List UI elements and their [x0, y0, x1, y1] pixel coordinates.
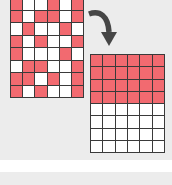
diagram-panel — [0, 0, 172, 160]
empty-cell — [23, 36, 35, 49]
filled-cell — [116, 80, 128, 92]
filled-cell — [91, 55, 103, 67]
filled-cell — [153, 80, 165, 92]
filled-cell — [23, 23, 35, 36]
empty-cell — [140, 104, 152, 116]
filled-cell — [11, 11, 23, 24]
filled-cell — [23, 73, 35, 86]
empty-cell — [116, 129, 128, 141]
filled-cell — [11, 73, 23, 86]
empty-cell — [91, 129, 103, 141]
filled-cell — [60, 23, 72, 36]
filled-cell — [128, 80, 140, 92]
filled-cell — [153, 92, 165, 104]
filled-cell — [91, 80, 103, 92]
filled-cell — [72, 11, 84, 24]
empty-cell — [91, 141, 103, 153]
empty-cell — [128, 141, 140, 153]
filled-cell — [128, 92, 140, 104]
empty-cell — [11, 23, 23, 36]
filled-cell — [11, 36, 23, 49]
empty-cell — [116, 141, 128, 153]
empty-cell — [60, 61, 72, 74]
filled-cell — [72, 86, 84, 99]
empty-cell — [23, 86, 35, 99]
empty-cell — [35, 48, 47, 61]
empty-cell — [23, 0, 35, 11]
filled-cell — [72, 36, 84, 49]
filled-cell — [116, 55, 128, 67]
filled-cell — [11, 48, 23, 61]
filled-cell — [140, 92, 152, 104]
filled-cell — [153, 67, 165, 79]
empty-cell — [153, 104, 165, 116]
empty-cell — [116, 116, 128, 128]
empty-cell — [103, 104, 115, 116]
empty-cell — [72, 23, 84, 36]
filled-cell — [128, 67, 140, 79]
filled-cell — [103, 80, 115, 92]
filled-cell — [35, 61, 47, 74]
curved-arrow-icon — [86, 6, 126, 50]
empty-cell — [35, 23, 47, 36]
empty-cell — [140, 141, 152, 153]
filled-cell — [91, 92, 103, 104]
empty-cell — [60, 0, 72, 11]
empty-cell — [48, 23, 60, 36]
empty-cell — [140, 116, 152, 128]
filled-cell — [11, 0, 23, 11]
empty-cell — [103, 141, 115, 153]
empty-cell — [153, 141, 165, 153]
empty-cell — [23, 11, 35, 24]
scattered-grid — [10, 0, 84, 98]
empty-cell — [60, 73, 72, 86]
empty-cell — [128, 129, 140, 141]
filled-cell — [103, 55, 115, 67]
filled-cell — [48, 73, 60, 86]
filled-cell — [153, 55, 165, 67]
empty-cell — [35, 73, 47, 86]
filled-cell — [103, 92, 115, 104]
filled-cell — [48, 0, 60, 11]
filled-cell — [60, 48, 72, 61]
filled-cell — [103, 67, 115, 79]
filled-cell — [116, 92, 128, 104]
empty-cell — [48, 86, 60, 99]
empty-cell — [128, 104, 140, 116]
filled-cell — [140, 67, 152, 79]
empty-cell — [60, 11, 72, 24]
filled-cell — [35, 86, 47, 99]
empty-cell — [23, 48, 35, 61]
empty-cell — [153, 116, 165, 128]
filled-cell — [140, 55, 152, 67]
filled-cell — [48, 11, 60, 24]
empty-cell — [48, 48, 60, 61]
filled-cell — [35, 11, 47, 24]
filled-cell — [128, 55, 140, 67]
empty-cell — [72, 48, 84, 61]
filled-cell — [72, 73, 84, 86]
empty-cell — [60, 86, 72, 99]
empty-cell — [103, 129, 115, 141]
empty-cell — [48, 36, 60, 49]
empty-cell — [48, 61, 60, 74]
empty-cell — [128, 116, 140, 128]
empty-cell — [153, 129, 165, 141]
empty-cell — [35, 0, 47, 11]
filled-cell — [11, 86, 23, 99]
filled-cell — [23, 61, 35, 74]
empty-cell — [91, 104, 103, 116]
filled-cell — [72, 0, 84, 11]
filled-cell — [116, 67, 128, 79]
empty-cell — [140, 129, 152, 141]
next-panel-edge — [0, 172, 172, 185]
filled-cell — [140, 80, 152, 92]
empty-cell — [103, 116, 115, 128]
filled-cell — [35, 36, 47, 49]
empty-cell — [60, 36, 72, 49]
filled-cell — [91, 67, 103, 79]
empty-cell — [11, 61, 23, 74]
empty-cell — [91, 116, 103, 128]
empty-cell — [116, 104, 128, 116]
sorted-grid — [90, 54, 165, 153]
